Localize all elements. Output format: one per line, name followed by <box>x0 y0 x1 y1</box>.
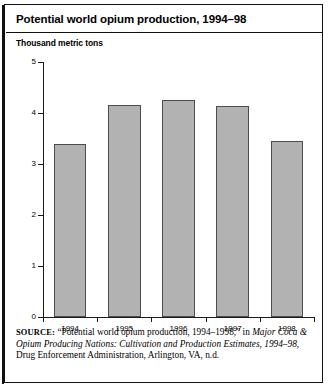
source-note: SOURCE: “Potential world opium productio… <box>16 327 312 362</box>
y-tick <box>38 215 44 216</box>
bar-1996 <box>162 100 195 317</box>
y-tick-label: 3 <box>22 159 36 168</box>
y-tick <box>38 164 44 165</box>
y-tick <box>38 113 44 114</box>
source-label: SOURCE: <box>16 328 55 337</box>
title-divider <box>6 32 323 33</box>
x-tick <box>97 317 98 322</box>
y-tick-label: 1 <box>22 261 36 270</box>
x-tick <box>260 317 261 322</box>
y-tick-label: 5 <box>22 57 36 66</box>
y-axis-units-label: Thousand metric tons <box>16 38 103 48</box>
y-tick <box>38 266 44 267</box>
bar-1994 <box>54 144 87 317</box>
figure-frame: Potential world opium production, 1994–9… <box>4 4 323 383</box>
bar-1998 <box>271 141 304 317</box>
y-tick-label: 2 <box>22 210 36 219</box>
bar-chart-plot-area: 012345 19941995199619971998 <box>30 58 315 318</box>
y-tick-label: 4 <box>22 108 36 117</box>
y-axis-line <box>43 62 44 318</box>
x-tick <box>151 317 152 322</box>
bar-1995 <box>108 105 141 317</box>
x-tick <box>43 317 44 322</box>
y-tick <box>38 62 44 63</box>
x-tick <box>314 317 315 322</box>
bar-1997 <box>216 106 249 317</box>
x-tick <box>206 317 207 322</box>
y-tick-label: 0 <box>22 312 36 321</box>
x-axis-line <box>43 317 314 318</box>
source-text-part-1: “Potential world opium production, 1994–… <box>55 327 252 337</box>
page-title: Potential world opium production, 1994–9… <box>16 13 246 25</box>
